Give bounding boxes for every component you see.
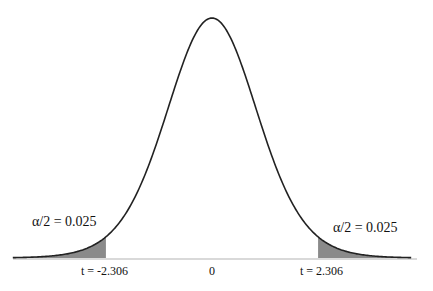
left-tail-label: α/2 = 0.025 (32, 214, 97, 229)
center-label: 0 (209, 264, 215, 278)
right-tail-label: α/2 = 0.025 (333, 220, 398, 235)
t-distribution-chart: α/2 = 0.025 α/2 = 0.025 t = -2.306 0 t =… (0, 0, 433, 291)
left-critical-value-label: t = -2.306 (81, 264, 128, 278)
right-critical-value-label: t = 2.306 (300, 264, 343, 278)
